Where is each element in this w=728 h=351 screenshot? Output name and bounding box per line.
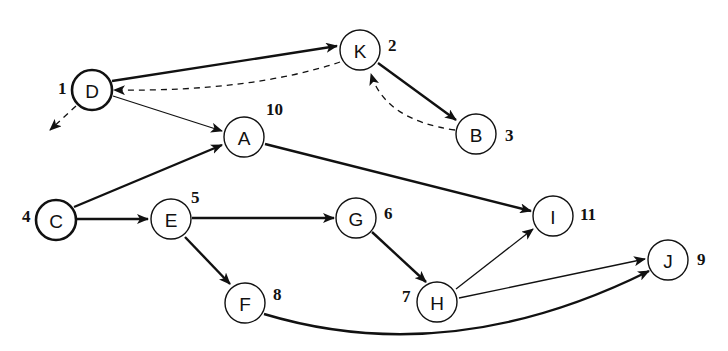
node-label: C	[49, 211, 63, 232]
order-label: 8	[273, 285, 282, 304]
order-label: 7	[402, 287, 411, 306]
graph-canvas: D 1 K 2 B 3 C 4 E 5 G 6 H 7 F 8 J 9	[0, 0, 728, 351]
node-label: H	[430, 293, 444, 314]
edge-D-K	[112, 46, 337, 81]
edge-D-A	[113, 96, 222, 131]
edge-E-F	[185, 237, 230, 284]
edge-A-I	[265, 144, 531, 211]
node-C[interactable]: C 4	[22, 200, 76, 240]
edge-C-A	[74, 145, 222, 207]
node-A[interactable]: A 10	[224, 100, 283, 158]
edge-B-K	[371, 74, 455, 130]
order-label: 11	[580, 205, 596, 224]
node-I[interactable]: I 11	[533, 196, 596, 236]
node-E[interactable]: E 5	[151, 188, 200, 240]
order-label: 1	[58, 79, 67, 98]
node-label: J	[663, 251, 673, 272]
node-J[interactable]: J 9	[648, 240, 706, 280]
edges	[50, 46, 649, 334]
node-label: B	[470, 125, 483, 146]
node-label: D	[85, 81, 99, 102]
node-G[interactable]: G 6	[336, 198, 393, 238]
order-label: 9	[697, 250, 706, 269]
order-label: 3	[505, 126, 514, 145]
order-label: 10	[266, 100, 283, 119]
order-label: 6	[384, 204, 393, 223]
order-label: 4	[22, 207, 31, 226]
order-label: 5	[191, 188, 200, 207]
node-H[interactable]: H 7	[402, 282, 457, 322]
node-label: I	[550, 207, 555, 228]
node-label: F	[239, 294, 251, 315]
node-label: E	[165, 210, 178, 231]
node-label: K	[354, 41, 367, 62]
edge-H-I	[456, 229, 533, 289]
edge-D-out	[50, 106, 76, 130]
node-K[interactable]: K 2	[340, 30, 397, 70]
order-label: 2	[388, 36, 397, 55]
edge-G-H	[372, 232, 426, 282]
edge-K-B	[378, 63, 456, 120]
node-label: A	[238, 128, 251, 149]
node-B[interactable]: B 3	[456, 114, 514, 154]
node-label: G	[349, 209, 364, 230]
node-D[interactable]: D 1	[58, 70, 112, 110]
